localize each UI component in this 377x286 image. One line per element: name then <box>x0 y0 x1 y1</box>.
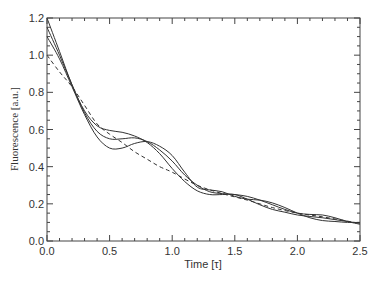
x-tick-label: 2.5 <box>352 245 367 257</box>
y-axis-title: Fluorescence [a.u.] <box>8 87 20 171</box>
x-axis-title: Time [τ] <box>184 258 222 270</box>
x-tick-labels: 0.00.51.01.52.02.5 <box>39 245 367 257</box>
x-tick-label: 2.0 <box>290 245 305 257</box>
y-tick-label: 0.4 <box>29 161 44 173</box>
axis-ticks <box>47 18 360 241</box>
y-tick-label: 0.2 <box>29 198 44 210</box>
x-tick-label: 1.0 <box>165 245 180 257</box>
data-series <box>47 18 360 224</box>
y-tick-label: 0.0 <box>29 235 44 247</box>
x-tick-label: 0.5 <box>102 245 117 257</box>
plot-frame <box>47 18 360 241</box>
y-tick-labels: 0.00.20.40.60.81.01.2 <box>29 12 44 247</box>
series-line-curve-dashed <box>47 55 360 223</box>
series-line-curve-2 <box>47 27 360 224</box>
y-tick-label: 0.6 <box>29 124 44 136</box>
y-tick-label: 1.0 <box>29 49 44 61</box>
y-tick-label: 0.8 <box>29 86 44 98</box>
y-tick-label: 1.2 <box>29 12 44 24</box>
series-line-curve-3 <box>47 37 360 223</box>
x-tick-label: 1.5 <box>227 245 242 257</box>
fluorescence-chart: 0.00.51.01.52.02.5 0.00.20.40.60.81.01.2… <box>0 0 377 286</box>
